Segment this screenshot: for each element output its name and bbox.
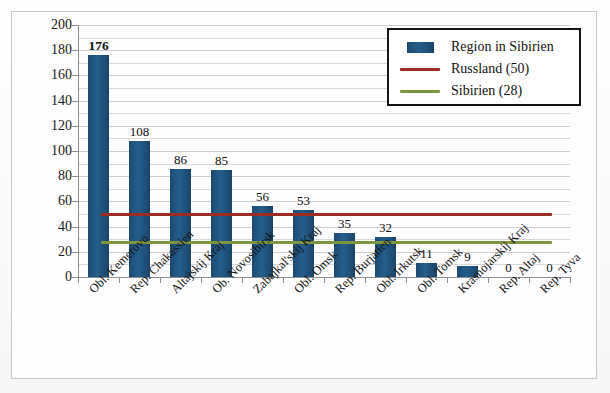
reference-line [101,213,552,216]
x-tick-mark [488,277,489,283]
y-tick-label: 140 [30,94,72,108]
gridline-major [78,252,570,253]
y-tick-mark [72,151,78,152]
y-tick-mark [72,75,78,76]
x-tick-mark [365,277,366,283]
y-tick-label: 120 [30,119,72,133]
y-tick-mark [72,227,78,228]
x-tick-mark [324,277,325,283]
chart-legend: Region in SibirienRussland (50)Sibirien … [387,28,581,106]
y-tick-mark [72,252,78,253]
y-axis-line [78,25,79,278]
y-tick-mark [72,176,78,177]
bar [211,170,232,277]
y-tick-mark [72,25,78,26]
legend-swatch [389,42,451,53]
bar-value-label: 35 [325,217,365,230]
y-tick-label: 0 [30,270,72,284]
y-tick-label: 60 [30,194,72,208]
y-tick-mark [72,126,78,127]
x-tick-mark [529,277,530,283]
bar-value-label: 56 [243,190,283,203]
bar-value-label: 0 [530,261,570,274]
legend-item: Sibirien (28) [389,80,579,102]
gridline-minor [78,189,570,190]
gridline-major [78,201,570,202]
bar-value-label: 32 [366,221,406,234]
legend-swatch [389,90,451,93]
gridline-minor [78,113,570,114]
bar [129,141,150,277]
gridline-minor [78,164,570,165]
y-axis-tick-labels: 200180160140120100806040200 [26,25,72,277]
bar-value-label: 0 [489,261,529,274]
bar [88,55,109,277]
legend-label: Sibirien (28) [451,83,522,99]
y-tick-label: 20 [30,245,72,259]
legend-item: Russland (50) [389,58,579,80]
y-tick-label: 200 [30,18,72,32]
bar-value-label: 176 [79,39,119,53]
y-tick-label: 40 [30,220,72,234]
legend-swatch [389,68,451,71]
gridline-minor [78,138,570,139]
bar-value-label: 85 [202,154,242,167]
bar-value-label: 86 [161,153,201,166]
bar-value-label: 9 [448,250,488,263]
gridline-major [78,151,570,152]
bar-value-label: 11 [407,247,447,260]
legend-bar-swatch-icon [407,42,434,53]
x-tick-mark [283,277,284,283]
legend-line-swatch-icon [400,90,440,93]
y-tick-label: 160 [30,68,72,82]
y-tick-label: 80 [30,169,72,183]
legend-item: Region in Sibirien [389,36,579,58]
x-tick-mark [160,277,161,283]
bar [457,266,478,277]
y-tick-mark [72,201,78,202]
legend-label: Region in Sibirien [451,39,554,55]
x-tick-mark [201,277,202,283]
bar [170,169,191,277]
y-tick-mark [72,50,78,51]
bar [416,263,437,277]
y-tick-label: 100 [30,144,72,158]
bar-value-label: 108 [120,125,160,138]
gridline-major [78,176,570,177]
legend-line-swatch-icon [400,68,440,71]
bar-value-label: 53 [284,194,324,207]
gridline-major [78,25,570,26]
chart-screenshot: 200180160140120100806040200 176108868556… [0,0,610,393]
legend-label: Russland (50) [451,61,529,77]
y-tick-mark [72,101,78,102]
x-tick-mark [447,277,448,283]
y-tick-label: 180 [30,43,72,57]
x-tick-mark [119,277,120,283]
x-tick-mark [570,277,571,283]
bar [334,233,355,277]
reference-line [101,241,552,244]
x-tick-mark [406,277,407,283]
x-tick-mark [78,277,79,283]
x-tick-mark [242,277,243,283]
